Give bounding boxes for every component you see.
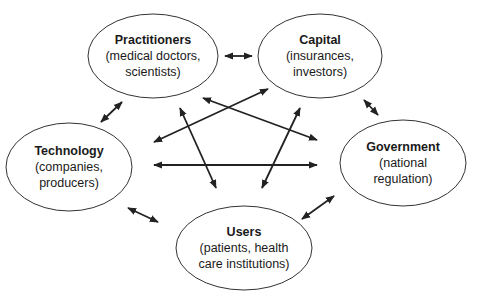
node-subtitle-line-2: regulation) bbox=[366, 171, 440, 187]
node-subtitle-line-2: scientists) bbox=[105, 64, 200, 80]
node-subtitle-line-1: (medical doctors, bbox=[105, 48, 200, 64]
double-arrow-users-government bbox=[302, 196, 334, 219]
node-title: Government bbox=[366, 139, 440, 155]
double-arrow-practitioners-users bbox=[180, 108, 216, 188]
double-arrow-practitioners-technology bbox=[101, 102, 122, 122]
node-users: Users(patients, healthcare institutions) bbox=[198, 224, 289, 272]
node-subtitle-line-2: care institutions) bbox=[198, 256, 289, 272]
node-title: Users bbox=[198, 224, 289, 240]
node-technology: Technology(companies,producers) bbox=[34, 143, 103, 191]
node-government: Government(nationalregulation) bbox=[366, 139, 440, 187]
double-arrow-practitioners-government bbox=[203, 98, 317, 140]
node-subtitle-line-2: producers) bbox=[34, 175, 103, 191]
node-subtitle-line-1: (national bbox=[366, 155, 440, 171]
node-subtitle-line-1: (patients, health bbox=[198, 240, 289, 256]
double-arrow-technology-users bbox=[128, 208, 158, 222]
node-subtitle-line-1: (companies, bbox=[34, 159, 103, 175]
node-title: Technology bbox=[34, 143, 103, 159]
node-practitioners: Practitioners(medical doctors,scientists… bbox=[105, 32, 200, 80]
node-subtitle-line-2: investors) bbox=[286, 64, 354, 80]
double-arrow-capital-users bbox=[262, 108, 300, 188]
node-title: Capital bbox=[286, 32, 354, 48]
node-capital: Capital(insurances,investors) bbox=[286, 32, 354, 80]
node-subtitle-line-1: (insurances, bbox=[286, 48, 354, 64]
node-title: Practitioners bbox=[105, 32, 200, 48]
double-arrow-capital-government bbox=[364, 100, 378, 115]
